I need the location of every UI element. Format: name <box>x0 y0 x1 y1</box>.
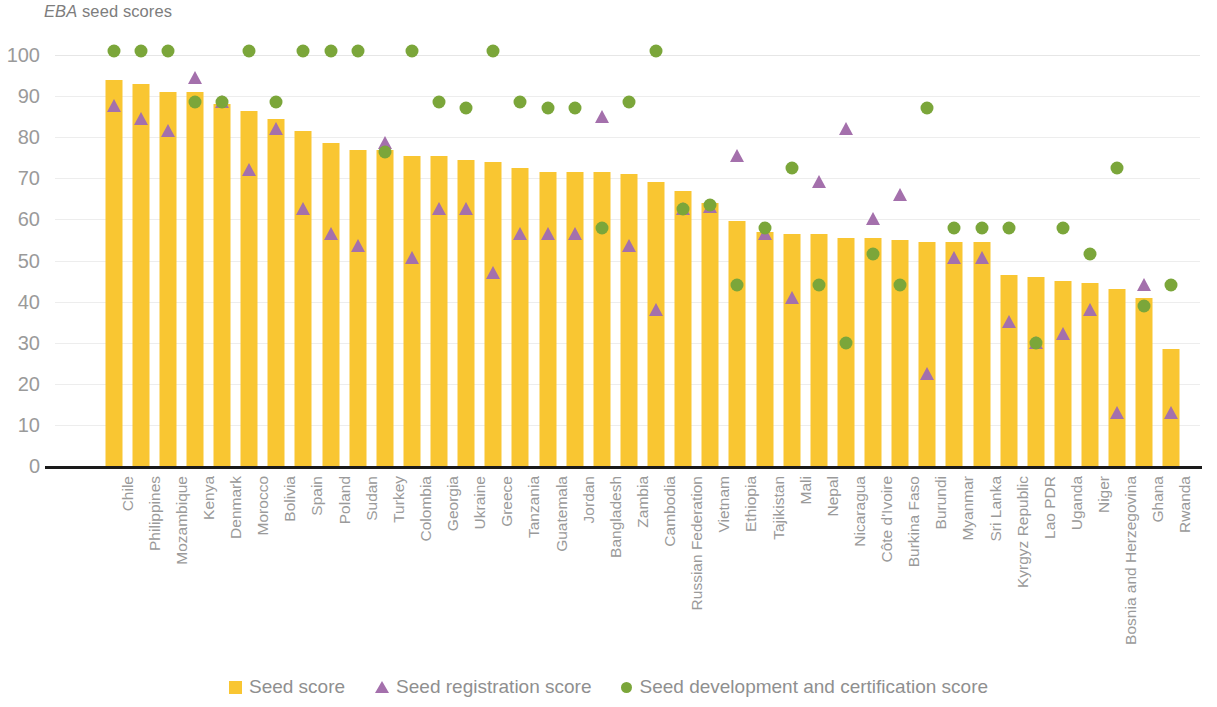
marker-seed-development-certification-score <box>243 44 256 57</box>
chart-column <box>724 36 751 466</box>
chart-column <box>941 36 968 466</box>
x-axis-tick-label: Poland <box>337 476 353 524</box>
chart-title-rest: seed scores <box>77 2 172 20</box>
y-axis-tick-label: 40 <box>18 290 40 313</box>
bar-seed-score <box>1000 275 1017 466</box>
x-axis-tick-label: Greece <box>499 476 515 527</box>
bar-seed-score <box>702 203 719 466</box>
x-axis-tick-label: Mali <box>798 476 814 504</box>
marker-seed-development-certification-score <box>839 336 852 349</box>
marker-seed-development-certification-score <box>1002 221 1015 234</box>
marker-seed-registration-score <box>405 251 419 264</box>
bar-seed-score <box>973 242 990 466</box>
chart-column <box>860 36 887 466</box>
marker-seed-registration-score <box>1056 327 1070 340</box>
chart-column <box>371 36 398 466</box>
chart-column <box>534 36 561 466</box>
marker-seed-development-certification-score <box>758 221 771 234</box>
x-axis-tick-label: Russian Federation <box>689 476 705 610</box>
legend-item[interactable]: Seed score <box>229 676 345 698</box>
chart-column <box>507 36 534 466</box>
x-axis-tick-label: Chile <box>120 476 136 511</box>
chart-column <box>1049 36 1076 466</box>
x-axis-tick-label: Rwanda <box>1177 476 1193 533</box>
marker-seed-registration-score <box>622 239 636 252</box>
marker-seed-development-certification-score <box>161 44 174 57</box>
x-axis-tick-label: Bangladesh <box>608 476 624 558</box>
chart-column <box>154 36 181 466</box>
marker-seed-development-certification-score <box>1084 248 1097 261</box>
legend-item[interactable]: Seed development and certification score <box>621 676 988 698</box>
marker-seed-development-certification-score <box>324 44 337 57</box>
bar-seed-score <box>322 143 339 466</box>
x-axis-tick-label: Guatemala <box>554 476 570 552</box>
x-axis-tick-label: Sudan <box>364 476 380 521</box>
marker-seed-registration-score <box>1002 315 1016 328</box>
legend-item-label: Seed development and certification score <box>639 676 988 698</box>
chart-column <box>344 36 371 466</box>
marker-seed-registration-score <box>975 251 989 264</box>
chart-column <box>1022 36 1049 466</box>
marker-seed-development-certification-score <box>1138 299 1151 312</box>
marker-seed-development-certification-score <box>297 44 310 57</box>
marker-seed-registration-score <box>1137 278 1151 291</box>
marker-seed-registration-score <box>1110 406 1124 419</box>
marker-seed-development-certification-score <box>1165 279 1178 292</box>
legend-item[interactable]: Seed registration score <box>375 676 591 698</box>
x-axis-tick-label: Uganda <box>1069 476 1085 530</box>
y-axis-tick-label: 90 <box>18 85 40 108</box>
y-axis-tick-label: 80 <box>18 126 40 149</box>
bar-seed-score <box>648 182 665 466</box>
chart-column <box>995 36 1022 466</box>
bar-seed-score <box>1027 277 1044 466</box>
bar-seed-score <box>837 238 854 466</box>
y-axis-tick-label: 30 <box>18 331 40 354</box>
x-axis-tick-label: Ukraine <box>472 476 488 529</box>
marker-seed-development-certification-score <box>107 44 120 57</box>
chart-column <box>968 36 995 466</box>
y-axis-tick-label: 50 <box>18 249 40 272</box>
marker-seed-registration-score <box>812 175 826 188</box>
y-axis-tick-label: 60 <box>18 208 40 231</box>
x-axis-tick-label: Burundi <box>933 476 949 529</box>
chart-column <box>317 36 344 466</box>
marker-seed-registration-score <box>351 239 365 252</box>
chart-column <box>480 36 507 466</box>
chart-column <box>588 36 615 466</box>
chart-column <box>778 36 805 466</box>
marker-seed-development-certification-score <box>216 96 229 109</box>
marker-seed-development-certification-score <box>270 96 283 109</box>
x-axis-tick-label: Denmark <box>228 476 244 539</box>
x-axis-tick-label: Nicaragua <box>852 476 868 547</box>
marker-seed-development-certification-score <box>677 203 690 216</box>
x-axis-tick-label: Zambia <box>635 476 651 528</box>
x-axis-tick-label: Bolivia <box>282 476 298 522</box>
x-axis-tick-label: Jordan <box>581 476 597 523</box>
bar-seed-score <box>946 242 963 466</box>
marker-seed-development-certification-score <box>812 279 825 292</box>
marker-seed-development-certification-score <box>1029 336 1042 349</box>
bar-seed-score <box>403 156 420 466</box>
marker-seed-registration-score <box>839 122 853 135</box>
marker-seed-registration-score <box>188 71 202 84</box>
x-axis-labels: ChilePhilippinesMozambiqueKenyaDenmarkMo… <box>55 472 1200 667</box>
x-axis-tick-label: Nepal <box>825 476 841 517</box>
chart-column <box>615 36 642 466</box>
bar-seed-score <box>376 150 393 466</box>
marker-seed-registration-score <box>568 227 582 240</box>
chart-column <box>290 36 317 466</box>
x-axis-tick-label: Ethiopia <box>743 476 759 532</box>
y-axis-tick-label: 100 <box>7 44 40 67</box>
y-axis-tick-label: 10 <box>18 413 40 436</box>
x-axis-tick-label: Spain <box>309 476 325 516</box>
bar-seed-score <box>566 172 583 466</box>
bar-seed-score <box>593 172 610 466</box>
chart-column <box>697 36 724 466</box>
bar-seed-score <box>675 191 692 466</box>
marker-seed-development-certification-score <box>514 96 527 109</box>
marker-seed-development-certification-score <box>351 44 364 57</box>
chart-column <box>805 36 832 466</box>
x-axis-tick-label: Kenya <box>201 476 217 520</box>
marker-seed-registration-score <box>107 99 121 112</box>
marker-seed-registration-score <box>649 303 663 316</box>
